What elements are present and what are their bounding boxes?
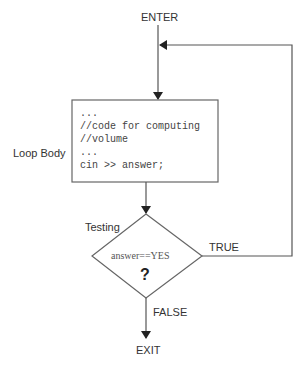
code-line: ...: [80, 146, 200, 159]
true-label: TRUE: [209, 241, 239, 253]
testing-label: Testing: [85, 221, 120, 233]
enter-label: ENTER: [141, 11, 178, 23]
code-line: ...: [80, 107, 200, 120]
code-line: cin >> answer;: [80, 159, 200, 172]
exit-label: EXIT: [136, 344, 160, 356]
condition-text: answer==YES: [111, 250, 170, 261]
loop-body-label: Loop Body: [13, 147, 66, 159]
false-label: FALSE: [153, 306, 187, 318]
code-line: //code for computing: [80, 120, 200, 133]
question-mark-icon: ?: [140, 266, 150, 284]
code-line: //volume: [80, 133, 200, 146]
loop-body-code: ... //code for computing //volume ... ci…: [80, 107, 200, 172]
